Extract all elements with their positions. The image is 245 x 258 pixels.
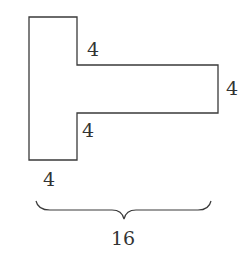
t-shape-diagram: 4 4 4 4 16 bbox=[0, 0, 245, 258]
t-shape-outline bbox=[29, 17, 218, 160]
label-bottom-notch: 4 bbox=[82, 119, 94, 141]
label-total-width: 16 bbox=[111, 227, 135, 249]
label-top-notch: 4 bbox=[87, 38, 99, 60]
label-right-edge: 4 bbox=[226, 77, 238, 99]
width-brace bbox=[36, 201, 211, 219]
label-stem-bottom: 4 bbox=[43, 168, 55, 190]
